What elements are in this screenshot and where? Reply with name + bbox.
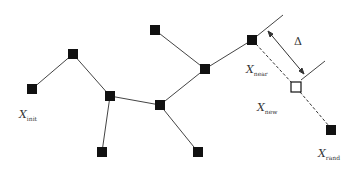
node-icon [105,91,115,101]
label-delta: Δ [294,35,302,48]
label-x-new: Xnew [257,101,277,115]
node-icon [97,147,107,157]
tree-edges [32,15,325,152]
node-icon [68,49,78,59]
node-icon [150,25,160,35]
node-icon [200,64,210,74]
node-icon [155,100,165,110]
x-rand-node-icon [326,125,336,135]
x-new-node-icon [291,82,301,92]
tree-nodes [27,25,336,157]
node-icon [193,147,203,157]
node-icon [27,84,37,94]
rrt-diagram [0,0,356,170]
label-x-init: Xinit [19,108,37,122]
boundary-line-new [301,61,325,80]
x-near-node-icon [247,35,257,45]
label-x-rand: Xrand [318,147,340,161]
label-x-near: Xnear [246,63,268,77]
